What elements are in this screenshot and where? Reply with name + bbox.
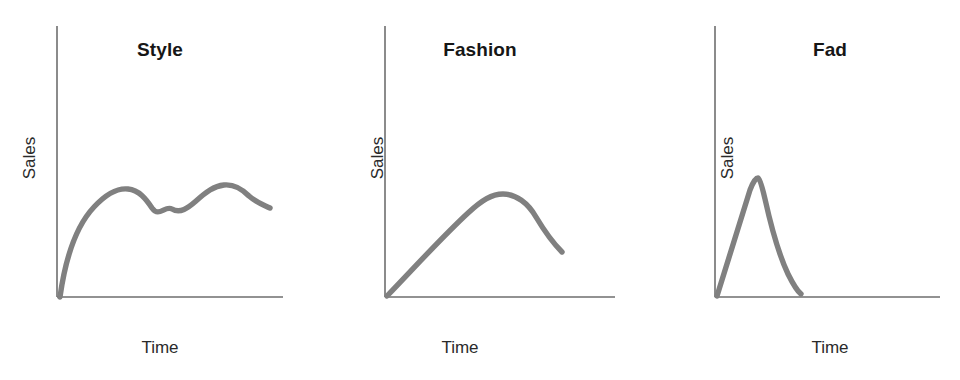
- fashion-curve: [387, 194, 562, 296]
- chart-panel-fad: Fad Sales Time: [640, 0, 960, 380]
- plot-area-fad: [640, 0, 960, 380]
- style-curve: [60, 185, 270, 297]
- x-axis-label-fad: Time: [510, 337, 960, 359]
- product-life-cycle-figure: Style Sales Time Fashion Sales Time Fad …: [0, 0, 960, 380]
- fad-curve: [717, 178, 801, 296]
